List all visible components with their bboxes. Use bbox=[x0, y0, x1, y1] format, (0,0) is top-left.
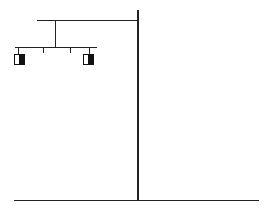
shaded-half bbox=[88, 55, 93, 64]
pedigree-diagram bbox=[0, 0, 272, 209]
sibship-line bbox=[15, 47, 97, 48]
descent-line bbox=[55, 21, 56, 48]
affected-male-symbol-2 bbox=[83, 54, 94, 65]
child-tick-3 bbox=[70, 48, 71, 53]
shaded-half bbox=[19, 55, 24, 64]
main-vertical-line bbox=[137, 10, 139, 201]
affected-male-symbol-1 bbox=[14, 54, 25, 65]
bottom-horizontal-line bbox=[14, 200, 259, 201]
top-horizontal-line bbox=[37, 20, 139, 21]
child-tick-2 bbox=[43, 48, 44, 53]
